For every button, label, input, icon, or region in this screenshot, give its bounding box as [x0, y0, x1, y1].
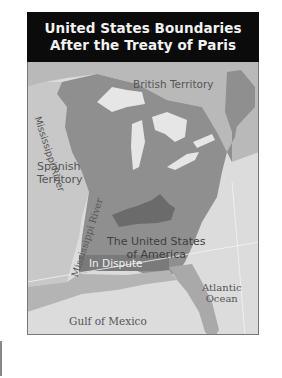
- label-british-territory: British Territory: [133, 78, 213, 90]
- label-in-dispute: In Dispute: [89, 257, 142, 269]
- title-line-1: United States Boundaries: [27, 20, 259, 37]
- spanish-line-1: Spanish: [37, 160, 83, 173]
- atlantic-line-1: Atlantic: [202, 282, 241, 293]
- label-gulf-of-mexico: Gulf of Mexico: [69, 315, 147, 327]
- spanish-line-2: Territory: [37, 173, 83, 186]
- title-line-2: After the Treaty of Paris: [27, 37, 259, 54]
- usa-line-1: The United States: [107, 235, 205, 248]
- label-atlantic-ocean: Atlantic Ocean: [202, 282, 241, 304]
- map-title: United States Boundaries After the Treat…: [27, 12, 259, 62]
- page-edge-mark: [0, 341, 2, 376]
- atlantic-line-2: Ocean: [202, 293, 241, 304]
- label-spanish-territory: Spanish Territory: [37, 160, 83, 186]
- map-frame: United States Boundaries After the Treat…: [27, 12, 259, 335]
